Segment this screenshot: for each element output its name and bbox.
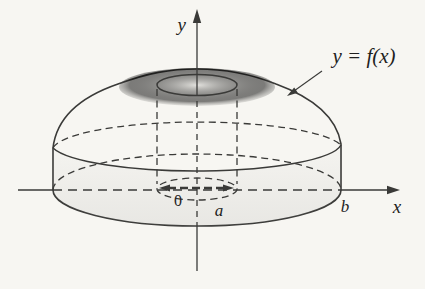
curve-label: y = f(x) (330, 44, 395, 68)
y-axis-label: y (176, 14, 187, 35)
outer-radius-label: b (341, 197, 350, 216)
solid-of-revolution-figure: y x 0 a b y = f(x) (0, 0, 425, 289)
origin-label: 0 (174, 192, 182, 209)
figure-canvas: y x 0 a b y = f(x) (0, 0, 425, 289)
inner-radius-label: a (215, 201, 224, 220)
x-axis-label: x (392, 196, 402, 217)
